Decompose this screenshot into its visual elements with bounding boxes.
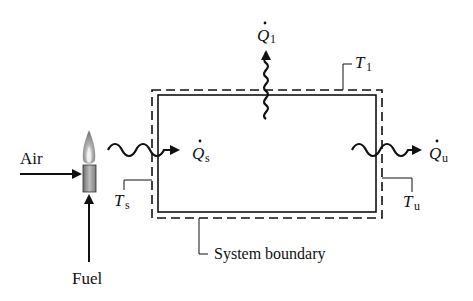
burner-icon bbox=[83, 165, 96, 192]
svg-text:u: u bbox=[442, 151, 448, 165]
air-label: Air bbox=[20, 149, 43, 168]
q1-label: Q 1 bbox=[257, 22, 276, 46]
qs-label: Q s bbox=[192, 140, 210, 165]
svg-text:s: s bbox=[205, 151, 210, 165]
svg-text:T: T bbox=[114, 191, 125, 210]
qu-wavy-arrow bbox=[352, 144, 420, 156]
ts-leader-line bbox=[124, 180, 152, 190]
svg-text:u: u bbox=[414, 199, 420, 213]
system-boundary-label: System boundary bbox=[214, 245, 326, 263]
heat-transfer-diagram: Air Fuel Q 1 Q s Q u T 1 T s T u System … bbox=[0, 0, 473, 301]
tu-label: T u bbox=[403, 192, 420, 213]
ts-label: T s bbox=[114, 191, 130, 212]
t1-label: T 1 bbox=[355, 53, 372, 74]
svg-text:T: T bbox=[403, 192, 414, 211]
svg-text:1: 1 bbox=[270, 32, 276, 46]
qs-wavy-arrow bbox=[108, 144, 178, 156]
svg-text:1: 1 bbox=[366, 60, 372, 74]
fuel-label: Fuel bbox=[72, 269, 103, 288]
tu-leader-line bbox=[382, 178, 412, 192]
q1-wavy-arrow bbox=[264, 52, 268, 119]
t1-leader-line bbox=[343, 64, 352, 90]
svg-text:Q: Q bbox=[429, 144, 441, 163]
svg-text:Q: Q bbox=[192, 144, 204, 163]
qu-label: Q u bbox=[429, 140, 448, 165]
svg-text:s: s bbox=[125, 198, 130, 212]
svg-text:Q: Q bbox=[257, 26, 269, 45]
system-boundary-leader-line bbox=[199, 218, 208, 254]
system-wall bbox=[158, 95, 376, 212]
svg-text:T: T bbox=[355, 53, 366, 72]
